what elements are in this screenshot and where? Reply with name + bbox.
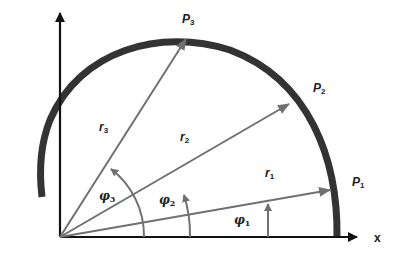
x-axis-label: x bbox=[374, 232, 381, 244]
point-label-p1: P1 bbox=[352, 176, 364, 190]
radius-vector-r3 bbox=[60, 39, 186, 237]
radius-label-r1: r1 bbox=[265, 167, 274, 181]
point-label-p3: P3 bbox=[182, 13, 194, 27]
angle-label-phi3: φ3 bbox=[99, 190, 115, 203]
point-label-p2: P2 bbox=[313, 82, 325, 96]
polar-diagram bbox=[0, 0, 400, 257]
radius-label-r3: r3 bbox=[99, 121, 108, 135]
angle-label-phi1: φ1 bbox=[234, 214, 250, 227]
radius-label-r2: r2 bbox=[180, 131, 189, 145]
angle-label-phi2: φ2 bbox=[159, 194, 175, 207]
